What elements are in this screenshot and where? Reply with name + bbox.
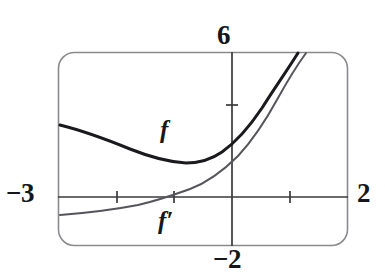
plot-canvas [0, 0, 385, 277]
x-axis-min-label: −3 [6, 180, 34, 207]
curve-label-f-prime: f′ [158, 208, 173, 233]
curve-label-f: f [160, 117, 168, 142]
y-axis-max-label: 6 [217, 22, 230, 49]
x-axis-max-label: 2 [357, 180, 370, 207]
plot-frame [59, 53, 348, 246]
function-derivative-plot: 6 −3 2 −2 f f′ [0, 0, 385, 277]
y-axis-min-label: −2 [213, 246, 241, 273]
